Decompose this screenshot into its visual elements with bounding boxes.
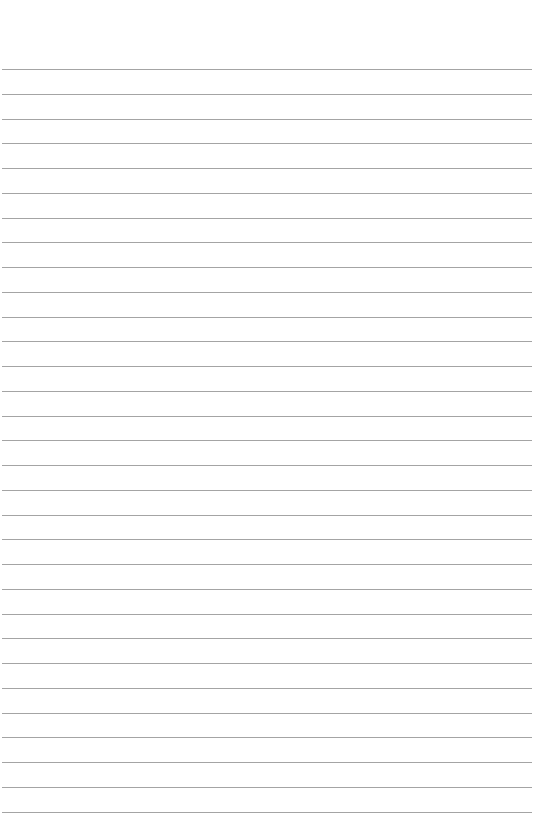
ruled-line: [2, 539, 532, 540]
ruled-line: [2, 465, 532, 466]
ruled-line: [2, 564, 532, 565]
ruled-line: [2, 713, 532, 714]
ruled-line: [2, 317, 532, 318]
ruled-line: [2, 787, 532, 788]
lined-paper-page: [0, 0, 534, 831]
ruled-line: [2, 143, 532, 144]
ruled-line: [2, 515, 532, 516]
ruled-line: [2, 366, 532, 367]
ruled-line: [2, 762, 532, 763]
ruled-line: [2, 589, 532, 590]
ruled-line: [2, 737, 532, 738]
ruled-line: [2, 416, 532, 417]
ruled-line: [2, 193, 532, 194]
ruled-line: [2, 341, 532, 342]
ruled-line: [2, 242, 532, 243]
ruled-line: [2, 688, 532, 689]
ruled-line: [2, 638, 532, 639]
ruled-line: [2, 69, 532, 70]
ruled-line: [2, 267, 532, 268]
ruled-line: [2, 94, 532, 95]
ruled-line: [2, 119, 532, 120]
ruled-line: [2, 440, 532, 441]
ruled-line: [2, 391, 532, 392]
ruled-line: [2, 614, 532, 615]
ruled-line: [2, 168, 532, 169]
ruled-line: [2, 663, 532, 664]
ruled-line: [2, 490, 532, 491]
ruled-line: [2, 812, 532, 813]
ruled-line: [2, 292, 532, 293]
ruled-line: [2, 218, 532, 219]
